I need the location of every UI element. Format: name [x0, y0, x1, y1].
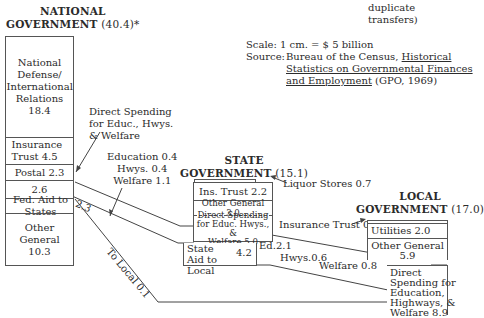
source-publisher: (GPO, 1969) [375, 75, 437, 86]
national-postal-cell: Postal 2.3 [6, 164, 73, 180]
state-title-line2: GOVERNMENT [180, 167, 271, 179]
label-line: for Educ., Hwys. [89, 118, 173, 130]
local-insurance-trust-label: Insurance Trust 0.2 [279, 219, 379, 231]
cell-value: 18.4 [7, 105, 73, 117]
national-defense-cell: National Defense/ International Relation… [6, 37, 73, 137]
source-title: Historical [402, 51, 452, 62]
cell-label: Other General [15, 222, 65, 246]
national-title-line2: GOVERNMENT [6, 18, 97, 30]
cell-value: Welfare 8.9 [390, 308, 456, 318]
source-label: Source: [246, 51, 285, 63]
scale-note: Scale: 1 cm. = $ 5 billion [246, 39, 373, 51]
label-line: & Welfare [89, 130, 173, 142]
national-total: (40.4)* [101, 18, 139, 30]
cell-label-wrap: Direct Spending for Education, Highways,… [390, 268, 456, 318]
state-title-line1: STATE [180, 154, 308, 167]
cell-label: Direct Spending for Education, Highways,… [390, 268, 456, 308]
cell-label: Ins. Trust 2.2 [199, 186, 267, 198]
source-title: Statistics on Governmental Finances [286, 63, 473, 75]
local-title: LOCAL GOVERNMENT (17.0) [356, 190, 484, 216]
liquor-stores-label: Liquor Stores 0.7 [283, 178, 371, 190]
state-box: Ins. Trust 2.2 Other General 3.0 Direct … [193, 182, 273, 242]
cell-label: Direct Spending for Educ. Hwys., & [193, 211, 273, 238]
local-total: (17.0) [451, 203, 484, 215]
label-line: Welfare 1.1 [107, 175, 177, 187]
local-utilities-cell: Utilities 2.0 [368, 223, 447, 238]
national-box: National Defense/ International Relation… [5, 36, 74, 266]
national-fed-aid-cell: Fed. Aid to States [6, 198, 73, 213]
cell-value: 5.9 [371, 251, 444, 261]
label-line: Education 0.4 [107, 151, 177, 163]
source-citation: Bureau of the Census, Historical Statist… [286, 51, 473, 87]
cell-value: 4.2 [236, 247, 252, 259]
fed-aid-breakdown-label: Education 0.4 Hwys. 0.4 Welfare 1.1 [107, 151, 177, 187]
cell-label: Insurance Trust 4.5 [12, 139, 68, 163]
national-insurance-cell: Insurance Trust 4.5 [6, 137, 73, 164]
duplicate-transfers-note: duplicate transfers) [368, 2, 418, 26]
label-line: Hwys. 0.4 [107, 163, 177, 175]
source-text: Bureau of the Census, [286, 51, 398, 62]
note-line: duplicate [368, 2, 418, 14]
source-title: and Employment [286, 75, 372, 86]
cell-label: Other General [371, 241, 444, 251]
note-line: transfers) [368, 14, 418, 26]
cell-label: Utilities 2.0 [371, 225, 430, 237]
local-title-line1: LOCAL [356, 190, 484, 203]
state-aid-cell: State Aid to Local 4.2 [183, 243, 257, 266]
local-other-general-cell: Other General5.9 [368, 238, 447, 262]
national-other-general-cell: Other General10.3 [6, 213, 73, 266]
fed-direct-spending-label: Direct Spending for Educ., Hwys. & Welfa… [89, 106, 173, 142]
state-ed-label: Ed.2.1 [259, 240, 292, 252]
cell-label: National Defense/ International Relation… [7, 57, 73, 105]
state-title: STATE GOVERNMENT (15.1) [180, 154, 308, 180]
national-title: NATIONAL GOVERNMENT (40.4)* [6, 5, 140, 31]
local-title-line2: GOVERNMENT [356, 203, 447, 215]
local-box: Utilities 2.0 Other General5.9 [367, 220, 448, 260]
cell-label: State Aid to Local [187, 243, 231, 276]
state-direct-spending-cell: Direct Spending for Educ. Hwys., &Welfar… [194, 215, 272, 242]
local-direct-spending-cell: Direct Spending for Education, Highways,… [387, 265, 448, 315]
cell-label: Postal 2.3 [15, 167, 65, 179]
national-title-line1: NATIONAL [6, 5, 140, 18]
cell-value: 10.3 [15, 246, 65, 258]
label-line: Direct Spending [89, 106, 173, 118]
